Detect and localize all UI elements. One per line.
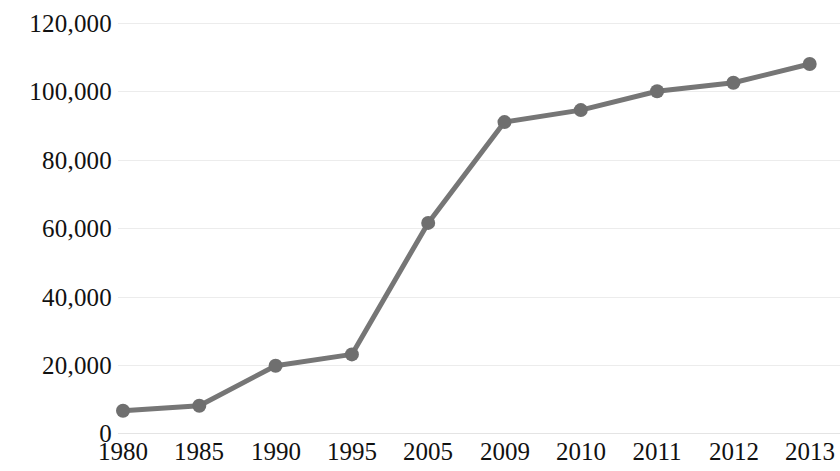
line-chart: 120,000 100,000 80,000 60,000 40,000 20,… [0, 0, 840, 471]
data-series-layer [0, 0, 840, 471]
data-point-1985 [192, 399, 206, 413]
data-point-2009 [498, 115, 512, 129]
data-point-1995 [345, 347, 359, 361]
data-point-2005 [421, 216, 435, 230]
x-tick-label-2013: 2013 [765, 438, 840, 466]
data-point-1990 [269, 359, 283, 373]
series-line [123, 64, 810, 411]
data-point-2013 [803, 57, 817, 71]
data-point-2012 [726, 76, 740, 90]
data-point-2011 [650, 84, 664, 98]
data-point-2010 [574, 103, 588, 117]
series-markers [116, 57, 817, 418]
data-point-1980 [116, 404, 130, 418]
plot-area: 120,000 100,000 80,000 60,000 40,000 20,… [0, 0, 840, 471]
